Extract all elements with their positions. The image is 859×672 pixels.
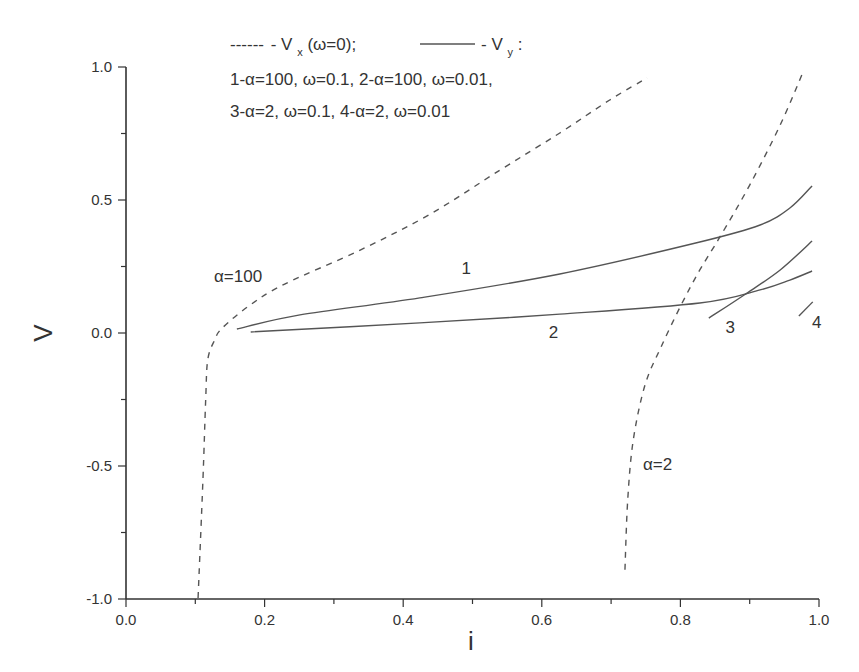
legend-dashed-label: - V [271,35,293,54]
legend-solid-prefix: - V [481,35,503,54]
legend-dashed-suffix: (ω=0); [307,35,356,54]
y-axis-label: V [28,324,58,342]
x-tick-label: 0.8 [670,611,691,628]
series-line-1 [625,72,803,570]
plot-series [198,72,813,598]
legend-dashed-sample: ------ [230,35,264,54]
annotation-label: 4 [812,313,821,332]
legend-line-2: 1-α=100, ω=0.1, 2-α=100, ω=0.01, [230,70,493,89]
legend-line-3: 3-α=2, ω=0.1, 4-α=2, ω=0.01 [230,102,450,121]
y-tick-label: 0.0 [91,324,112,341]
legend-line-1: ------ - V x (ω=0); [230,35,356,60]
annotation-label: α=2 [643,455,672,474]
legend-solid-suffix: : [518,35,523,54]
legend-solid-subscript: y [507,46,513,58]
legend: ------ - V x (ω=0); - V y : 1-α=100, ω=0… [230,35,522,121]
x-tick-label: 0.2 [254,611,275,628]
annotation-label: 1 [461,259,470,278]
legend-solid-label: - V y : [481,35,522,60]
annotation-label: α=100 [214,267,262,286]
series-line-5 [799,302,813,316]
x-tick-label: 0.4 [393,611,414,628]
x-tick-label: 0.6 [531,611,552,628]
x-axis-label: i [468,626,474,656]
y-tick-label: 0.5 [91,191,112,208]
annotations: α=100α=21234 [214,259,822,474]
series-line-0 [198,78,647,598]
series-line-4 [709,241,812,318]
chart: 0.00.20.40.60.81.0-1.0-0.50.00.51.0 α=10… [0,0,859,672]
annotation-label: 2 [549,323,558,342]
y-tick-label: 1.0 [91,58,112,75]
y-tick-label: -0.5 [86,457,112,474]
axes: 0.00.20.40.60.81.0-1.0-0.50.00.51.0 [86,58,829,628]
y-tick-label: -1.0 [86,590,112,607]
x-tick-label: 0.0 [116,611,137,628]
annotation-label: 3 [725,318,734,337]
x-tick-label: 1.0 [809,611,830,628]
legend-dashed-subscript: x [297,46,303,58]
